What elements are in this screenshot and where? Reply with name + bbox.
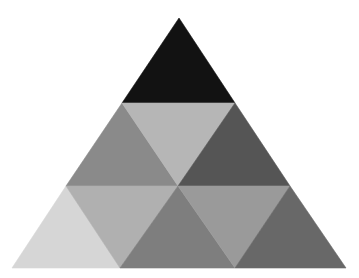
triangle-diagram	[0, 0, 359, 278]
triangle-group	[12, 18, 346, 268]
triangle-t1	[122, 18, 235, 103]
